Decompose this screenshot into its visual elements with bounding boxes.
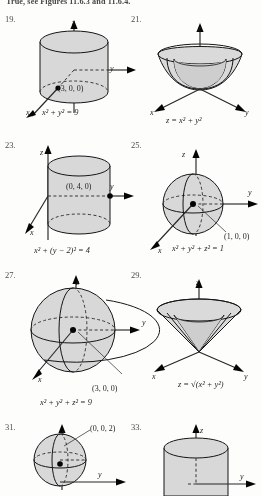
equation-19: x² + y² = 9 xyxy=(42,108,78,117)
marked-point xyxy=(107,193,113,199)
cylinder-top-ellipse xyxy=(48,156,110,176)
cylinder-top-ellipse xyxy=(40,31,108,53)
x-axis-arrow xyxy=(154,104,165,112)
point-label-23: (0, 4, 0) xyxy=(66,182,91,191)
y-axis-arrow xyxy=(246,481,256,488)
equation-23: x² + (y − 2)² = 4 xyxy=(34,246,90,255)
y-axis xyxy=(200,89,238,108)
z-axis-label-31: z xyxy=(62,428,65,437)
z-axis-arrow xyxy=(44,145,51,154)
cylinder-diagram-33 xyxy=(148,424,260,496)
equation-29: z = √(x² + y²) xyxy=(178,380,224,389)
figure-33 xyxy=(148,424,260,496)
y-axis-label-25: y xyxy=(248,188,252,197)
z-axis-label-29: z xyxy=(196,278,199,287)
cylinder-top-ellipse xyxy=(164,438,228,458)
figure-27 xyxy=(14,272,140,384)
y-axis-label-23: y xyxy=(110,182,114,191)
point-label-25: (1, 0, 0) xyxy=(224,232,249,241)
figure-19 xyxy=(18,18,136,118)
y-axis-label-31: y xyxy=(98,470,102,479)
point-label-31: (0, 0, 2) xyxy=(90,424,115,433)
y-axis-arrow xyxy=(124,193,134,200)
x-axis xyxy=(162,89,200,108)
z-axis-label-19: z xyxy=(72,18,75,27)
figure-number-23: 23. xyxy=(5,140,16,150)
z-axis-label-33: z xyxy=(200,426,203,435)
z-axis-label-23: z xyxy=(40,148,43,157)
y-axis-arrow xyxy=(248,201,258,208)
z-axis-arrow xyxy=(192,149,199,158)
z-axis-label-25: z xyxy=(182,150,185,159)
equation-27: x² + y² + z² = 9 xyxy=(40,398,92,407)
x-axis-label-21: x xyxy=(150,108,154,117)
x-axis-label-19: x xyxy=(26,108,30,117)
sphere-diagram-27 xyxy=(14,272,140,384)
y-axis-arrow xyxy=(130,327,140,334)
y-axis-label-19: y xyxy=(110,64,114,73)
marked-point xyxy=(70,327,76,333)
cylinder-diagram xyxy=(18,18,136,118)
z-axis-arrow xyxy=(192,424,199,433)
figure-number-31: 31. xyxy=(5,422,16,432)
figure-number-19: 19. xyxy=(5,14,16,24)
y-axis xyxy=(199,352,236,368)
marked-point xyxy=(190,201,196,207)
point-label-19: (3, 0, 0) xyxy=(58,84,83,93)
x-axis-label-29: x xyxy=(152,372,156,381)
cone-diagram xyxy=(140,276,258,376)
x-axis-arrow xyxy=(154,364,165,372)
figure-23 xyxy=(22,142,134,246)
y-axis-arrow xyxy=(116,479,126,486)
figure-31 xyxy=(24,424,128,494)
y-axis-label-29: y xyxy=(244,372,248,381)
x-axis xyxy=(30,196,48,226)
x-axis-label-27: x xyxy=(38,375,42,384)
y-axis-label-33: y xyxy=(240,472,244,481)
y-axis-arrow xyxy=(233,364,244,372)
marked-point xyxy=(57,461,63,467)
y-axis-label-21: y xyxy=(245,108,249,117)
equation-21: z = x² + y² xyxy=(166,116,201,125)
y-axis-arrow xyxy=(127,67,136,74)
equation-25: x² + y² + z² = 1 xyxy=(172,244,224,253)
x-axis xyxy=(162,352,199,368)
cylinder-diagram-23 xyxy=(22,142,134,246)
z-axis-label-27: z xyxy=(76,278,79,287)
sphere-diagram-31 xyxy=(24,424,128,494)
x-axis-label-23: x xyxy=(30,228,34,237)
page-header-text: True, see Figures 11.6.3 and 11.6.4. xyxy=(6,0,256,6)
point-label-27: (3, 0, 0) xyxy=(92,384,117,393)
figure-number-33: 33. xyxy=(131,422,142,432)
figure-29 xyxy=(140,276,258,376)
x-axis-label-25: x xyxy=(158,246,162,255)
z-axis-label-21: z xyxy=(198,24,201,33)
